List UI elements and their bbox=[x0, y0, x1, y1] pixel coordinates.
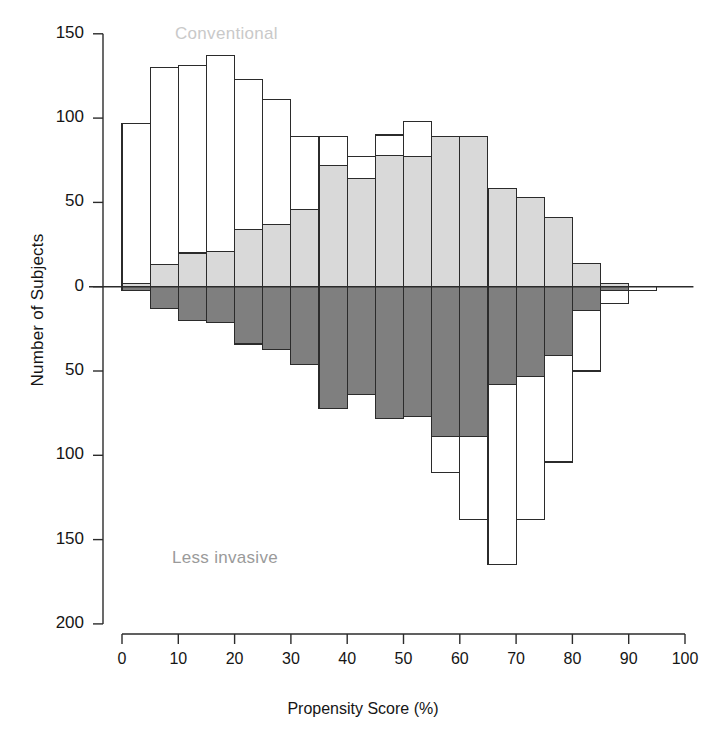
bar-conventional-matched bbox=[291, 209, 319, 287]
bar-conventional-matched bbox=[178, 253, 206, 287]
chart-figure: Number of Subjects Propensity Score (%) … bbox=[0, 0, 726, 752]
legend-label-less-invasive: Less invasive bbox=[172, 548, 278, 568]
bar-less-invasive-matched bbox=[572, 287, 600, 311]
chart-svg bbox=[0, 0, 726, 752]
bar-conventional-matched bbox=[572, 263, 600, 287]
bar-conventional-matched bbox=[404, 157, 432, 287]
bar-conventional-matched bbox=[347, 179, 375, 287]
bar-conventional-matched bbox=[235, 229, 263, 286]
bar-conventional-matched bbox=[488, 189, 516, 287]
x-axis-tick-label: 100 bbox=[665, 650, 705, 668]
y-axis-tick-label: 100 bbox=[24, 107, 84, 127]
bar-less-invasive-matched bbox=[488, 287, 516, 385]
bar-conventional-matched bbox=[206, 251, 234, 286]
y-axis-tick-label: 0 bbox=[24, 276, 84, 296]
y-axis-tick-label: 50 bbox=[24, 360, 84, 380]
bar-less-invasive-matched bbox=[432, 287, 460, 437]
x-axis-tick-label: 20 bbox=[215, 650, 255, 668]
bar-less-invasive-matched bbox=[404, 287, 432, 417]
x-axis-title: Propensity Score (%) bbox=[0, 700, 726, 718]
bar-less-invasive-matched bbox=[544, 287, 572, 356]
bar-conventional-matched bbox=[150, 265, 178, 287]
bar-less-invasive-matched bbox=[206, 287, 234, 322]
bar-less-invasive-matched bbox=[516, 287, 544, 376]
y-axis-tick-label: 150 bbox=[24, 529, 84, 549]
bar-conventional-matched bbox=[432, 137, 460, 287]
bar-conventional-total bbox=[150, 68, 178, 287]
bar-less-invasive-matched bbox=[319, 287, 347, 408]
legend-label-conventional: Conventional bbox=[175, 24, 278, 44]
y-axis-tick-label: 100 bbox=[24, 444, 84, 464]
x-axis-tick-label: 40 bbox=[327, 650, 367, 668]
bar-less-invasive-matched bbox=[235, 287, 263, 344]
x-axis-tick-label: 60 bbox=[440, 650, 480, 668]
bar-less-invasive-matched bbox=[150, 287, 178, 309]
x-axis-tick-label: 10 bbox=[158, 650, 198, 668]
bar-conventional-total bbox=[122, 123, 150, 287]
bar-less-invasive-matched bbox=[460, 287, 488, 437]
x-axis-tick-label: 90 bbox=[609, 650, 649, 668]
x-axis-tick-label: 50 bbox=[384, 650, 424, 668]
bar-conventional-matched bbox=[460, 137, 488, 287]
bar-less-invasive-matched bbox=[263, 287, 291, 349]
y-axis-tick-label: 50 bbox=[24, 191, 84, 211]
y-axis-tick-label: 200 bbox=[24, 613, 84, 633]
bar-conventional-matched bbox=[263, 224, 291, 286]
x-axis-tick-label: 80 bbox=[552, 650, 592, 668]
x-axis-tick-label: 30 bbox=[271, 650, 311, 668]
bar-conventional-matched bbox=[544, 218, 572, 287]
bar-less-invasive-matched bbox=[291, 287, 319, 365]
bar-less-invasive-matched bbox=[178, 287, 206, 321]
plot-area bbox=[0, 0, 726, 752]
bar-less-invasive-matched bbox=[347, 287, 375, 395]
y-axis-title: Number of Subjects bbox=[28, 200, 48, 420]
bar-conventional-matched bbox=[516, 197, 544, 286]
x-axis-tick-label: 70 bbox=[496, 650, 536, 668]
y-axis-tick-label: 150 bbox=[24, 23, 84, 43]
bar-conventional-matched bbox=[319, 165, 347, 286]
bar-conventional-matched bbox=[375, 155, 403, 287]
x-axis-tick-label: 0 bbox=[102, 650, 142, 668]
bar-less-invasive-matched bbox=[375, 287, 403, 419]
